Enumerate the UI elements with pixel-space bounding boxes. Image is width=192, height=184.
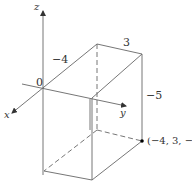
point-label: (−4, 3, −5): [147, 136, 192, 146]
edge-top-right: [92, 54, 142, 98]
point-marker: [140, 139, 144, 143]
z-axis-label: z: [34, 2, 39, 12]
coordinate-box-diagram: [0, 0, 192, 184]
hidden-edge-back-bottom: [97, 130, 142, 141]
y-axis-label: y: [120, 108, 126, 118]
x-axis-label: x: [4, 110, 10, 120]
x-dimension-label: −4: [52, 54, 68, 65]
y-dimension-label: 3: [123, 37, 130, 48]
edge-bottom-right: [92, 141, 142, 180]
hidden-edge-left-bottom: [44, 130, 97, 171]
origin-label: 0: [36, 77, 43, 88]
z-dimension-label: −5: [146, 90, 162, 101]
edge-y-top: [97, 44, 142, 54]
edge-bottom-left: [44, 171, 92, 180]
